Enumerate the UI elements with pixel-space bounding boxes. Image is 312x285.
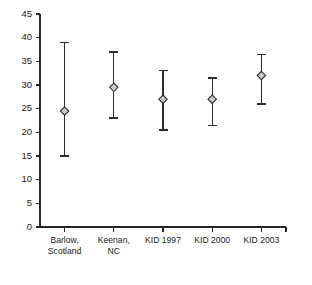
x-axis-tick-label: Barlow,Scotland: [48, 235, 82, 256]
y-axis: 510152025303540450: [21, 8, 40, 232]
data-point-marker: [159, 95, 167, 103]
y-axis-tick-label: 45: [21, 8, 32, 19]
x-axis-tick-label: KID 1997: [145, 235, 181, 245]
y-axis-tick-label: 15: [21, 150, 32, 161]
data-series: [60, 42, 266, 156]
y-axis-tick-label: 40: [21, 31, 32, 42]
y-axis-tick-label: 10: [21, 173, 32, 184]
y-axis-tick-label: 25: [21, 102, 32, 113]
data-point-group: [208, 78, 217, 125]
x-axis-tick-label: KID 2000: [194, 235, 230, 245]
y-axis-tick-label: 35: [21, 55, 32, 66]
y-axis-tick-label: 0: [27, 221, 32, 232]
data-point-marker: [60, 107, 68, 115]
x-axis-tick-label: KID 2003: [243, 235, 279, 245]
data-point-marker: [208, 95, 216, 103]
y-axis-tick-label: 20: [21, 126, 32, 137]
data-point-marker: [257, 71, 265, 79]
data-point-group: [257, 54, 266, 104]
data-point-group: [60, 42, 69, 156]
x-axis: Barlow,ScotlandKeenan,NCKID 1997KID 2000…: [40, 227, 286, 256]
y-axis-tick-label: 30: [21, 79, 32, 90]
chart-container: 510152025303540450 Barlow,ScotlandKeenan…: [0, 0, 312, 285]
x-axis-tick-label: Keenan,NC: [98, 235, 130, 256]
data-point-group: [109, 52, 118, 118]
error-bar-chart: 510152025303540450 Barlow,ScotlandKeenan…: [0, 0, 312, 285]
y-axis-tick-label: 5: [27, 197, 32, 208]
data-point-group: [159, 71, 168, 130]
data-point-marker: [110, 83, 118, 91]
